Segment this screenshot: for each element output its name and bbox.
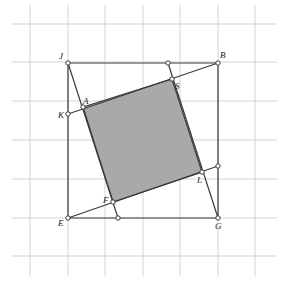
point-L xyxy=(200,170,204,174)
point-J xyxy=(66,61,70,65)
point-top-mid xyxy=(166,61,170,65)
point-K xyxy=(66,112,70,116)
label-J: J xyxy=(59,51,64,61)
point-F xyxy=(111,200,115,204)
label-B: B xyxy=(220,50,226,60)
label-S: S xyxy=(175,81,180,91)
point-E xyxy=(66,216,70,220)
label-F: F xyxy=(102,195,109,205)
point-right-mid xyxy=(216,164,220,168)
point-B xyxy=(216,61,220,65)
label-G: G xyxy=(215,221,222,231)
label-A: A xyxy=(82,96,89,106)
point-bottom-mid xyxy=(116,216,120,220)
label-L: L xyxy=(196,175,202,185)
label-K: K xyxy=(57,110,65,120)
geometry-figure: J B E G K A S L F xyxy=(0,0,284,281)
point-G xyxy=(216,216,220,220)
point-S xyxy=(170,77,174,81)
label-E: E xyxy=(57,218,64,228)
shaded-square-ASLF xyxy=(83,79,202,202)
